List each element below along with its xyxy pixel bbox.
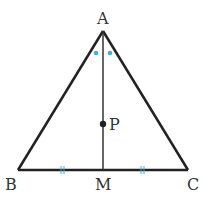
angle-mark-right bbox=[108, 51, 113, 56]
label-b: B bbox=[5, 175, 17, 194]
point-p bbox=[100, 121, 106, 127]
label-p: P bbox=[109, 115, 120, 134]
angle-mark-left bbox=[94, 51, 99, 56]
segment-ac bbox=[103, 31, 188, 170]
triangle-diagram: A P B M C bbox=[0, 0, 205, 202]
label-c: C bbox=[187, 175, 199, 194]
label-m: M bbox=[95, 175, 111, 194]
segment-ab bbox=[18, 31, 103, 170]
label-a: A bbox=[96, 9, 109, 28]
